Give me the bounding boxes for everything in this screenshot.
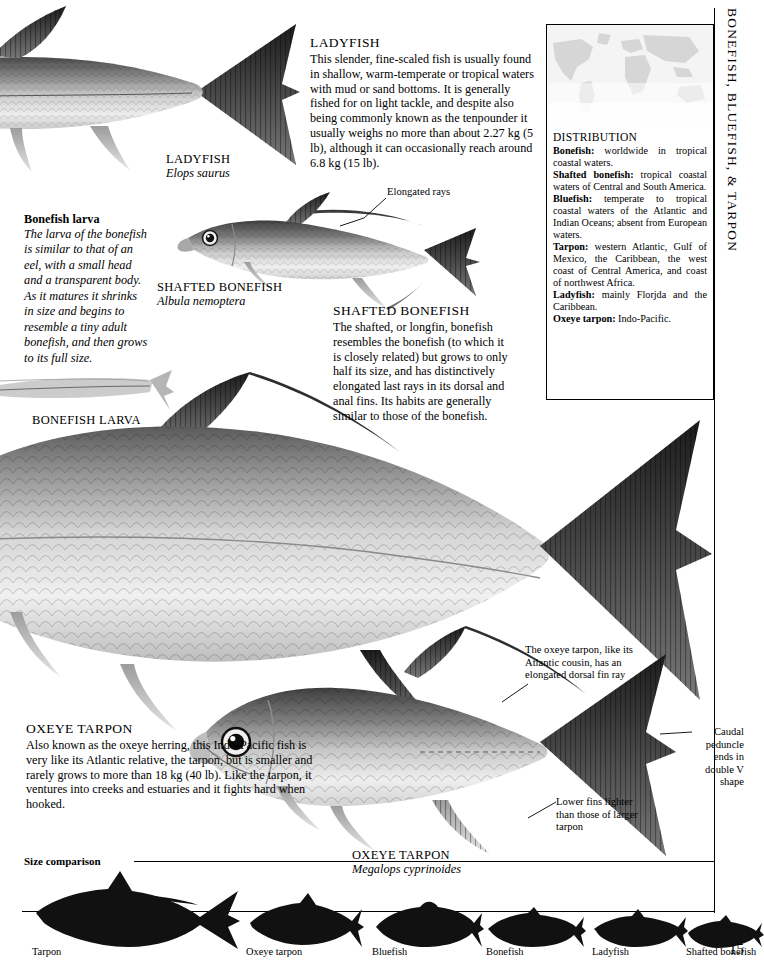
bonefish-larva-plate-name: BONEFISH LARVA bbox=[32, 413, 141, 427]
shafted-bonefish-heading: Shafted Bonefish bbox=[333, 304, 509, 319]
shafted-bonefish-plate-latin: Albula nemoptera bbox=[157, 294, 282, 308]
bonefish-larva-body: The larva of the bonefish is similar to … bbox=[24, 227, 149, 366]
shafted-bonefish-section: Shafted Bonefish The shafted, or longfin… bbox=[333, 304, 509, 424]
lower-fins-annotation-leader bbox=[524, 798, 558, 822]
size-comparison-rule bbox=[134, 861, 714, 862]
distribution-entry-name: Bluefish: bbox=[553, 193, 592, 204]
bonefish-larva-heading: Bonefish larva bbox=[24, 212, 149, 227]
world-map-svg bbox=[547, 25, 713, 125]
ladyfish-plate-latin: Elops saurus bbox=[166, 166, 230, 180]
size-comparison-label: Tarpon bbox=[32, 946, 61, 957]
distribution-entry-name: Oxeye tarpon: bbox=[553, 313, 616, 324]
size-comparison-item-bluefish: Bluefish bbox=[372, 899, 484, 955]
size-comparison: Size comparison Tarpon Oxeye tarpon bbox=[24, 855, 714, 955]
ladyfish-plate-label: LADYFISH Elops saurus bbox=[166, 152, 230, 181]
distribution-entry-name: Bonefish: bbox=[553, 145, 594, 156]
distribution-entry-name: Shafted bonefish: bbox=[553, 169, 634, 180]
tarpon-silhouette bbox=[32, 869, 244, 951]
bluefish-silhouette bbox=[372, 899, 484, 951]
size-comparison-item-tarpon: Tarpon bbox=[32, 869, 244, 955]
bonefish-larva-illustration bbox=[0, 370, 174, 410]
ladyfish-plate-name: LADYFISH bbox=[166, 152, 230, 166]
size-comparison-label: Bluefish bbox=[372, 946, 407, 957]
distribution-entry-name: Tarpon: bbox=[553, 241, 588, 252]
shafted-bonefish-body: The shafted, or longfin, bonefish resemb… bbox=[333, 320, 509, 424]
oxeye-tarpon-section: Oxeye Tarpon Also known as the oxeye her… bbox=[26, 722, 316, 812]
elongated-rays-label: Elongated rays bbox=[387, 186, 450, 199]
running-head: BONEFISH, BLUEFISH, & TARPON bbox=[718, 8, 746, 308]
oxeye-tarpon-annotation-lower-fins: Lower fins lighter than those of larger … bbox=[556, 796, 646, 834]
running-head-label: BONEFISH, BLUEFISH, & TARPON bbox=[724, 8, 740, 252]
distribution-entry: Bonefish: worldwide in tropical coastal … bbox=[553, 145, 707, 169]
oxeye-tarpon-annotation-dorsal: The oxeye tarpon, like its Atlantic cous… bbox=[525, 644, 660, 682]
bonefish-larva-section: Bonefish larva The larva of the bonefish… bbox=[24, 212, 149, 366]
bonefish-silhouette bbox=[486, 905, 586, 951]
oxeye-tarpon-heading: Oxeye Tarpon bbox=[26, 722, 316, 737]
distribution-entry: Tarpon: western Atlantic, Gulf of Mexico… bbox=[553, 241, 707, 289]
size-comparison-item-ladyfish: Ladyfish bbox=[592, 907, 688, 955]
bonefish-larva-plate-label: BONEFISH LARVA bbox=[32, 413, 141, 427]
size-comparison-label: Oxeye tarpon bbox=[246, 946, 302, 957]
size-comparison-item-bonefish: Bonefish bbox=[486, 905, 586, 955]
lower-fins-label: Lower fins lighter than those of larger … bbox=[556, 796, 646, 834]
distribution-text: Distribution Bonefish: worldwide in trop… bbox=[553, 131, 707, 325]
dorsal-annotation-leader bbox=[498, 682, 534, 706]
distribution-entry: Shafted bonefish: tropical coastal water… bbox=[553, 169, 707, 193]
size-comparison-item-shafted-bonefish: Shafted bonefish bbox=[686, 913, 764, 955]
distribution-entry: Bluefish: temperate to tropical coastal … bbox=[553, 193, 707, 241]
elongated-rays-leader bbox=[330, 192, 394, 232]
distribution-panel: Distribution Bonefish: worldwide in trop… bbox=[546, 24, 714, 400]
ladyfish-section: Ladyfish This slender, fine-scaled fish … bbox=[310, 36, 538, 171]
shafted-bonefish-plate-name: SHAFTED BONEFISH bbox=[157, 280, 282, 294]
distribution-entry: Ladyfish: mainly Florjda and the Caribbe… bbox=[553, 289, 707, 313]
shafted-bonefish-annotation-elongated-rays: Elongated rays bbox=[387, 186, 450, 199]
distribution-entry: Oxeye tarpon: Indo-Pacific. bbox=[553, 313, 707, 325]
oxeye-tarpon-body: Also known as the oxeye herring, this In… bbox=[26, 738, 316, 812]
shafted-bonefish-plate-label: SHAFTED BONEFISH Albula nemoptera bbox=[157, 280, 282, 309]
size-comparison-label: Shafted bonefish bbox=[686, 946, 756, 957]
size-comparison-label: Bonefish bbox=[486, 946, 524, 957]
caudal-annotation-leader bbox=[660, 728, 694, 738]
dorsal-fin-ray-label: The oxeye tarpon, like its Atlantic cous… bbox=[525, 644, 660, 682]
size-comparison-row: Tarpon Oxeye tarpon Bluefish Bonefish bbox=[24, 869, 714, 955]
oxeye-tarpon-annotation-caudal: Caudal peduncle ends in double V shape bbox=[690, 726, 744, 789]
ladyfish-body: This slender, fine-scaled fish is usuall… bbox=[310, 52, 538, 171]
oxeye-tarpon-silhouette bbox=[246, 893, 364, 951]
distribution-entry-text: Indo-Pacific. bbox=[616, 313, 671, 324]
caudal-peduncle-label: Caudal peduncle ends in double V shape bbox=[690, 726, 744, 789]
distribution-heading: Distribution bbox=[553, 131, 707, 144]
world-map bbox=[547, 25, 713, 125]
ladyfish-silhouette bbox=[592, 907, 688, 951]
size-comparison-title: Size comparison bbox=[24, 855, 101, 867]
ladyfish-heading: Ladyfish bbox=[310, 36, 538, 51]
distribution-entry-name: Ladyfish: bbox=[553, 289, 595, 300]
size-comparison-item-oxeye-tarpon: Oxeye tarpon bbox=[246, 893, 364, 955]
ladyfish-illustration bbox=[0, 6, 300, 172]
page-number: 15 bbox=[729, 941, 744, 958]
size-comparison-label: Ladyfish bbox=[592, 946, 629, 957]
